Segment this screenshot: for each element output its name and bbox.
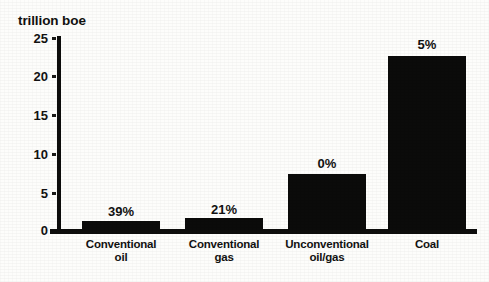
bar-conventional-oil [82, 221, 160, 230]
category-label-coal: Coal [388, 238, 466, 251]
category-label-line-2: oil [70, 251, 172, 264]
category-label-line-1: Conventional [173, 238, 275, 251]
bar-label-conventional-gas: 21% [185, 203, 263, 216]
category-label-conventional-oil: Conventional oil [70, 238, 172, 263]
y-tick-label-15: 15 [14, 109, 48, 122]
y-tick-label-5: 5 [14, 187, 48, 200]
category-label-line-2: gas [173, 251, 275, 264]
bar-conventional-gas [185, 218, 263, 230]
y-tick-mark-20 [52, 75, 56, 78]
category-label-conventional-gas: Conventional gas [173, 238, 275, 263]
bar-label-conventional-oil: 39% [82, 205, 160, 218]
bar-coal [388, 56, 466, 230]
category-label-line-2: oil/gas [272, 251, 382, 264]
y-tick-label-25: 25 [14, 32, 48, 45]
y-tick-label-10: 10 [14, 148, 48, 161]
y-tick-mark-10 [52, 153, 56, 156]
y-tick-mark-15 [52, 114, 56, 117]
category-label-unconventional-oil-gas: Unconventional oil/gas [272, 238, 382, 263]
category-label-line-1: Unconventional [272, 238, 382, 251]
category-label-line-1: Conventional [70, 238, 172, 251]
bar-unconventional-oil-gas [288, 174, 366, 230]
y-tick-label-0: 0 [14, 224, 48, 237]
y-axis-line [57, 36, 61, 233]
category-label-line-1: Coal [388, 238, 466, 251]
y-tick-mark-5 [52, 192, 56, 195]
bar-label-unconventional-oil-gas: 0% [288, 157, 366, 170]
bar-label-coal: 5% [388, 38, 466, 51]
bar-chart-figure: trillion boe 25 20 15 10 5 0 39% Convent… [0, 0, 489, 282]
plot-area: 25 20 15 10 5 0 39% Conventional oil 21%… [0, 0, 489, 282]
y-tick-mark-25 [52, 37, 56, 40]
y-tick-label-20: 20 [14, 70, 48, 83]
